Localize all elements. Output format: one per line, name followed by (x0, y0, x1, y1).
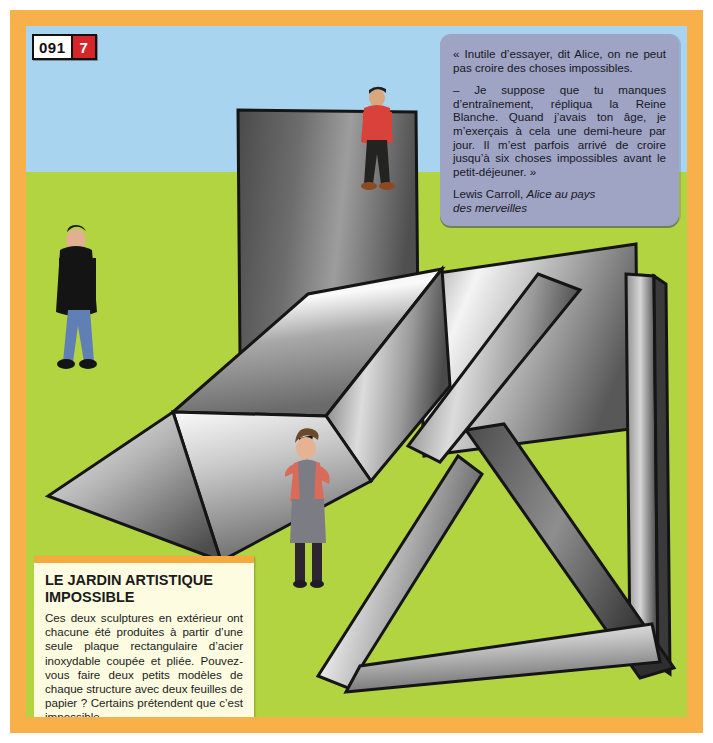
caption-text: Ces deux sculptures en extérieur ont cha… (45, 611, 243, 717)
quote-work-line-1: Alice au pays (526, 187, 595, 200)
section-number: 7 (71, 36, 95, 58)
caption-box-body: LE JARDIN ARTISTIQUEIMPOSSIBLE Ces deux … (34, 563, 254, 717)
illustration-scene: 091 7 « Inutile d’essayer, dit Alice, on… (26, 26, 687, 717)
quote-work-line-2: des merveilles (453, 201, 527, 214)
page-number-badge: 091 7 (32, 34, 97, 60)
caption-title-line-1: LE JARDIN ARTISTIQUE (45, 572, 213, 588)
quote-attribution: Lewis Carroll, Alice au paysdes merveill… (453, 187, 666, 214)
quote-paragraph-1: « Inutile d’essayer, dit Alice, on ne pe… (453, 47, 666, 74)
quote-author: Lewis Carroll, (453, 187, 526, 200)
caption-title-line-2: IMPOSSIBLE (45, 589, 134, 605)
caption-box-top-bar (34, 556, 254, 563)
quote-paragraph-2: – Je suppose que tu manques d’entraîneme… (453, 83, 666, 178)
figure-man-in-black-jacket (56, 225, 97, 369)
page-root: 091 7 « Inutile d’essayer, dit Alice, on… (0, 0, 713, 743)
quote-box: « Inutile d’essayer, dit Alice, on ne pe… (440, 34, 679, 226)
caption-box: LE JARDIN ARTISTIQUEIMPOSSIBLE Ces deux … (34, 556, 254, 717)
lower-sculpture-bottom-strip (346, 624, 660, 692)
caption-title: LE JARDIN ARTISTIQUEIMPOSSIBLE (45, 572, 243, 605)
page-number: 091 (34, 36, 71, 58)
